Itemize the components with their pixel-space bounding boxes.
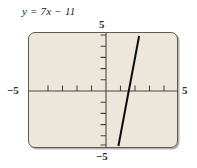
axis-label-bottom: −5	[96, 150, 108, 162]
y-axis-ticks	[101, 35, 107, 145]
graph-figure: y = 7x − 11	[0, 0, 197, 168]
equation-label: y = 7x − 11	[22, 5, 76, 17]
axis-label-top: 5	[99, 18, 105, 30]
axis-label-right: 5	[182, 84, 188, 96]
coordinate-plane	[29, 33, 178, 148]
axis-label-left: −5	[7, 84, 19, 96]
plot-panel	[28, 32, 178, 148]
